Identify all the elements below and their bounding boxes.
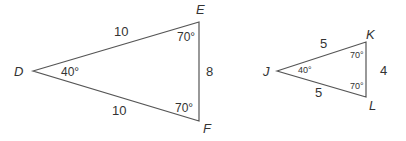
- vertex-label-f: F: [203, 121, 212, 136]
- angle-label-l: 70°: [350, 81, 364, 91]
- diagram-canvas: D E F 10 10 8 40° 70° 70° J K L 5 5 4 40…: [0, 0, 406, 141]
- triangle-def: D E F 10 10 8 40° 70° 70°: [14, 2, 213, 136]
- vertex-label-l: L: [369, 98, 376, 113]
- angle-label-k: 70°: [350, 50, 364, 60]
- vertex-label-e: E: [196, 2, 205, 17]
- angle-label-f: 70°: [175, 101, 193, 115]
- angle-label-d: 40°: [61, 65, 79, 79]
- triangle-jkl: J K L 5 5 4 40° 70° 70°: [262, 27, 387, 113]
- angle-label-e: 70°: [177, 30, 195, 44]
- vertex-label-k: K: [366, 27, 376, 42]
- side-label-jl: 5: [315, 85, 322, 100]
- angle-label-j: 40°: [298, 65, 312, 75]
- side-label-ef: 8: [206, 64, 213, 79]
- side-label-df: 10: [112, 103, 126, 118]
- side-label-kl: 4: [380, 63, 387, 78]
- side-label-jk: 5: [320, 36, 327, 51]
- vertex-label-j: J: [262, 64, 270, 79]
- vertex-label-d: D: [14, 64, 23, 79]
- side-label-de: 10: [114, 24, 128, 39]
